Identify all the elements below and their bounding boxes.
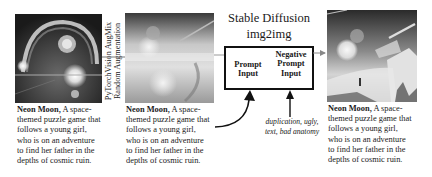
caption-line: to find her father in the [17, 146, 94, 155]
caption-line: themed puzzle game that [17, 115, 100, 124]
caption-line: depths of cosmic ruin. [328, 155, 402, 164]
caption-line: themed puzzle game that [328, 114, 411, 123]
negative-to-model-arrowhead [286, 90, 294, 99]
negative-prompt-line: Negative [270, 50, 312, 59]
caption-line: depths of cosmic ruin. [17, 156, 91, 165]
caption-line: follows a young girl, [126, 125, 196, 134]
caption-line: depths of cosmic ruin. [126, 156, 200, 165]
caption-generated: Neon Moon, A space- themed puzzle game t… [328, 104, 420, 165]
caption-line: A space- [170, 105, 201, 114]
caption-line: A space- [61, 105, 92, 114]
caption-title: Neon Moon, [126, 105, 170, 114]
caption-to-prompt-arrow [215, 100, 249, 127]
caption-line: who is on an adventure [328, 135, 406, 144]
caption-line: to find her father in the [126, 146, 203, 155]
model-title: Stable Diffusion [222, 11, 316, 26]
caption-line: A space- [372, 104, 403, 113]
prompt-input-line: Prompt [230, 60, 266, 69]
negative-prompt-text-line: duplication, ugly, [250, 117, 334, 127]
prompt-input-label: Prompt Input [230, 60, 266, 79]
caption-original: Neon Moon, A space- themed puzzle game t… [17, 105, 109, 166]
caption-line: who is on an adventure [126, 136, 204, 145]
prompt-input-line: Input [230, 69, 266, 78]
augmentation-label: PyTorchVision AugMix Random Augmentation [103, 18, 123, 104]
original-image [15, 14, 102, 103]
negative-prompt-line: Input [270, 69, 312, 78]
negative-prompt-input-label: Negative Prompt Input [270, 50, 312, 78]
augmented-image [125, 13, 214, 103]
caption-augmented: Neon Moon, A space- themed puzzle game t… [126, 105, 218, 166]
model-box: Prompt Input Negative Prompt Input [224, 46, 314, 90]
negative-prompt-text-line: text, bad anatomy [250, 127, 334, 137]
caption-line: themed puzzle game that [126, 115, 209, 124]
caption-line: follows a young girl, [328, 124, 398, 133]
caption-title: Neon Moon, [328, 104, 372, 113]
negative-prompt-line: Prompt [270, 59, 312, 68]
caption-title: Neon Moon, [17, 105, 61, 114]
negative-prompt-text: duplication, ugly, text, bad anatomy [250, 117, 334, 137]
augmentation-label-line2: Random Augmentation [113, 22, 122, 100]
caption-line: follows a young girl, [17, 125, 87, 134]
model-subtitle: img2img [222, 27, 316, 42]
caption-line: to find her father in the [328, 145, 405, 154]
caption-to-prompt-arrowhead [244, 90, 255, 101]
augmentation-label-line1: PyTorchVision AugMix [104, 22, 113, 100]
generated-image [327, 10, 417, 102]
caption-line: who is on an adventure [17, 136, 95, 145]
